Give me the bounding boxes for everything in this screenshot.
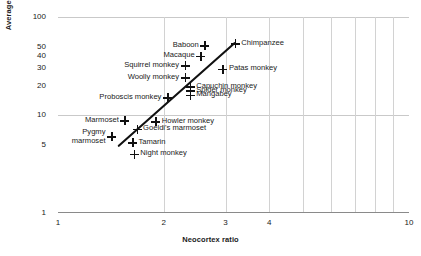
y-tick-50: 50 [0,43,46,51]
y-tick-30: 30 [0,64,46,72]
label-baboon: Baboon [173,41,199,50]
plot-area: ChimpanzeeBaboonMacaqueSquirrel monkeyPa… [58,17,409,213]
label-woolly-monkey: Woolly monkey [128,73,179,82]
x-tick-1: 1 [46,219,70,227]
label-mangabey: Mangabey [196,90,231,99]
x-tick-4: 4 [257,219,281,227]
marker-night-monkey [130,150,139,159]
y-tick-40: 40 [0,52,46,60]
x-tick-3: 3 [214,219,238,227]
marker-chimpanzee [231,39,240,48]
gridline-h-100 [58,17,409,18]
y-tick-5: 5 [0,141,46,149]
x-axis-line [58,212,409,213]
label-squirrel-monkey: Squirrel monkey [124,61,179,70]
x-tick-10: 10 [397,219,421,227]
x-axis-title: Neocortex ratio [0,235,421,244]
label-chimpanzee: Chimpanzee [241,39,284,48]
gridline-v-6 [331,17,332,213]
marker-woolly-monkey [181,73,190,82]
gridline-v-2 [164,17,165,213]
marker-baboon [200,41,209,50]
marker-macaque [196,52,205,61]
marker-pygmy-marmoset [107,132,116,141]
y-tick-1: 1 [0,209,46,217]
label-macaque: Macaque [163,51,194,60]
marker-patas-monkey [218,65,227,74]
label-patas-monkey: Patas monkey [229,64,277,73]
gridline-v-7 [355,17,356,213]
label-proboscis-monkey: Proboscis monkey [99,93,161,102]
label-pygmy-marmoset: Pygmymarmoset [72,128,106,145]
gridline-v-5 [303,17,304,213]
gridline-v-3 [226,17,227,213]
label-night-monkey: Night monkey [140,149,186,158]
marker-tamarin [128,138,137,147]
marker-mangabey [186,91,195,100]
label-goeldi-s-marmoset: Goeldi's marmoset [143,124,206,133]
marker-proboscis-monkey [163,93,172,102]
x-tick-2: 2 [152,219,176,227]
marker-squirrel-monkey [181,61,190,70]
label-marmoset: Marmoset [85,116,119,125]
gridline-v-9 [393,17,394,213]
marker-marmoset [120,116,129,125]
marker-goeldi-s-marmoset [133,125,142,134]
y-tick-100: 100 [0,13,46,21]
scatter-chart: Average group size Neocortex ratio 15102… [0,0,421,256]
y-tick-10: 10 [0,111,46,119]
y-tick-20: 20 [0,82,46,90]
gridline-v-8 [375,17,376,213]
label-tamarin: Tamarin [139,138,166,147]
